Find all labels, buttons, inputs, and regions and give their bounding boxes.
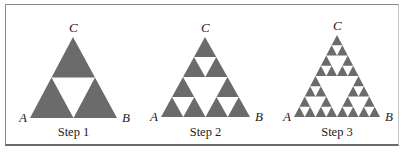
panel-step-1: C A B Step 1 — [18, 20, 130, 139]
sierpinski-triangle-step-1 — [30, 37, 117, 118]
sierpinski-triangle-step-2 — [161, 37, 250, 117]
panel-step-3: C A B Step 3 — [282, 18, 393, 139]
vertex-label-b: B — [385, 109, 393, 124]
vertex-label-c: C — [69, 20, 78, 35]
vertex-label-a: A — [282, 109, 291, 124]
vertex-label-c: C — [201, 20, 210, 35]
vertex-label-b: B — [122, 110, 130, 125]
step-label: Step 2 — [190, 125, 222, 139]
vertex-label-a: A — [18, 110, 27, 125]
vertex-label-c: C — [333, 18, 342, 33]
panel-step-2: C A B Step 2 — [149, 20, 263, 139]
vertex-label-a: A — [149, 109, 158, 124]
vertex-label-b: B — [255, 109, 263, 124]
sierpinski-figure: C A B Step 1 C A B Step 2 C A B Step 3 — [0, 0, 404, 152]
step-label: Step 3 — [321, 125, 353, 139]
step-label: Step 1 — [58, 125, 90, 139]
sierpinski-triangle-step-3 — [294, 35, 380, 117]
